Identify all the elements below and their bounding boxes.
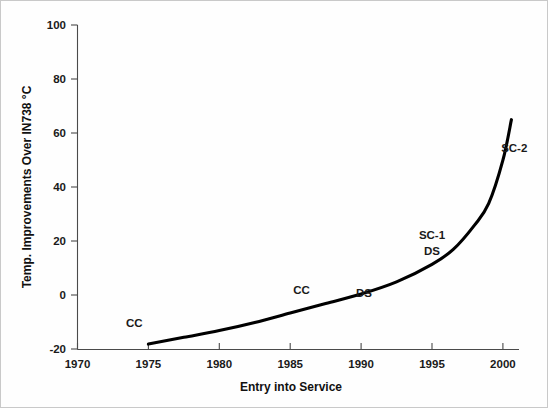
curve-annotation: SC-1 <box>419 229 446 241</box>
y-tick-label: 40 <box>53 181 66 193</box>
y-tick-label: 100 <box>47 19 66 31</box>
line-chart-plot: 100 80 60 40 20 0 -20 1970 1975 1980 198… <box>1 1 548 408</box>
x-tick-marks <box>78 343 503 350</box>
x-axis-title: Entry into Service <box>240 380 342 394</box>
x-tick-label: 1970 <box>65 358 91 370</box>
y-tick-label: -20 <box>49 343 66 355</box>
y-tick-label: 80 <box>53 73 66 85</box>
x-tick-labels: 1970 1975 1980 1985 1990 1995 2000 <box>65 358 516 370</box>
y-tick-marks <box>71 25 78 349</box>
x-tick-label: 1975 <box>136 358 162 370</box>
curve-annotation: DS <box>424 245 440 257</box>
curve-annotation: DS <box>356 287 372 299</box>
curve-annotation: SC-2 <box>501 142 527 154</box>
y-tick-label: 60 <box>53 127 66 139</box>
y-tick-label: 20 <box>53 235 66 247</box>
x-tick-label: 2000 <box>490 358 516 370</box>
x-tick-label: 1985 <box>277 358 303 370</box>
x-tick-label: 1980 <box>207 358 233 370</box>
y-tick-labels: 100 80 60 40 20 0 -20 <box>47 19 66 355</box>
data-curve <box>148 120 511 344</box>
y-tick-label: 0 <box>60 289 66 301</box>
y-axis-title: Temp. Improvements Over IN738 °C <box>20 85 34 288</box>
chart-figure: 100 80 60 40 20 0 -20 1970 1975 1980 198… <box>0 0 548 408</box>
x-tick-label: 1995 <box>419 358 445 370</box>
x-tick-label: 1990 <box>348 358 374 370</box>
curve-annotation: CC <box>126 317 143 329</box>
axis-lines <box>78 25 520 350</box>
curve-annotation: CC <box>293 284 310 296</box>
